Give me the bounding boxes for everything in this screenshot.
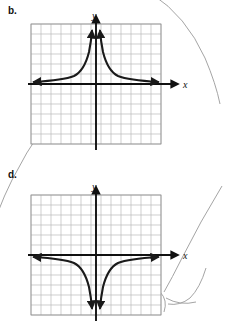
graph-panel-d: d.: [0, 162, 225, 324]
y-axis-label-d: y: [91, 182, 97, 192]
panel-label-d: d.: [8, 169, 17, 180]
y-axis-label-b: y: [91, 10, 97, 21]
x-axis-label-d: x: [182, 250, 188, 261]
coordinate-graph-d: x y: [20, 182, 205, 324]
x-axis-label-b: x: [182, 79, 188, 90]
worksheet-page: b.: [0, 0, 225, 324]
graph-panel-b: b.: [0, 0, 225, 162]
coordinate-graph-b: x y: [20, 10, 205, 160]
panel-label-b: b.: [8, 5, 17, 16]
